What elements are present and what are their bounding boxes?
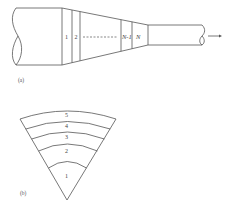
cone-bottom-edge [62, 45, 148, 65]
section-label-n-minus-1: N-1 [121, 33, 132, 40]
pipe-break-left-icon [12, 8, 21, 65]
cone-top-edge [62, 8, 148, 25]
figure-b-caption: (b) [20, 190, 27, 197]
fan-left-edge [20, 119, 67, 200]
fan-arc-outer [20, 111, 116, 119]
diagram-canvas: 1 2 N-1 N (a) 5 4 3 2 1 (b) [0, 0, 226, 206]
section-label-2: 2 [75, 34, 78, 40]
fan-arc-3 [32, 132, 105, 139]
pipe-break-right-icon [200, 25, 205, 45]
ring-label-1: 1 [65, 173, 68, 179]
section-label-1: 1 [65, 34, 68, 40]
ring-label-3: 3 [65, 134, 68, 140]
fan-arc-4 [26, 122, 110, 130]
ring-label-2: 2 [65, 148, 68, 154]
ring-label-5: 5 [65, 112, 68, 118]
figure-a-pipe: 1 2 N-1 N (a) [12, 8, 222, 84]
fan-right-edge [67, 119, 116, 200]
fan-arc-1 [49, 162, 87, 169]
fan-arc-2 [39, 144, 98, 151]
section-label-n: N [135, 33, 141, 40]
figure-b-fan: 5 4 3 2 1 (b) [20, 111, 116, 200]
figure-a-caption: (a) [18, 77, 24, 84]
arrow-right-icon [208, 35, 222, 38]
ring-label-4: 4 [65, 123, 68, 129]
